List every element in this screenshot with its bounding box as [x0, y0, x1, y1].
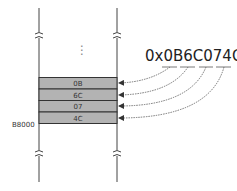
byte-mapping-arrows — [119, 67, 224, 118]
memory-cell: 07 — [39, 101, 117, 113]
break-mark-icon — [35, 33, 43, 35]
arrow-byte-0 — [119, 67, 170, 83]
cell-value: 6C — [73, 92, 82, 100]
memory-cells: 0B 6C 07 4C — [39, 78, 117, 124]
memory-cell: 6C — [39, 89, 117, 101]
memory-cell: 0B — [39, 78, 117, 90]
memory-layout-diagram: ⋮ 0B 6C 07 4C B8000 0x0B6C074C — [0, 0, 237, 191]
break-mark-icon — [113, 33, 121, 35]
memory-cell: 4C — [39, 112, 117, 124]
arrow-byte-1 — [119, 67, 188, 95]
break-mark-icon — [113, 37, 121, 39]
break-mark-icon — [35, 37, 43, 39]
base-address-label: B8000 — [12, 121, 35, 129]
cell-value: 4C — [73, 115, 82, 123]
cell-value: 0B — [73, 80, 82, 88]
cell-value: 07 — [74, 103, 83, 111]
arrow-byte-2 — [119, 67, 206, 106]
break-mark-icon — [35, 155, 43, 157]
break-mark-icon — [113, 155, 121, 157]
hex-value-label: 0x0B6C074C — [145, 47, 237, 65]
break-mark-icon — [35, 151, 43, 153]
break-mark-icon — [113, 151, 121, 153]
vertical-ellipsis: ⋮ — [76, 43, 88, 57]
arrow-byte-3 — [119, 67, 224, 118]
